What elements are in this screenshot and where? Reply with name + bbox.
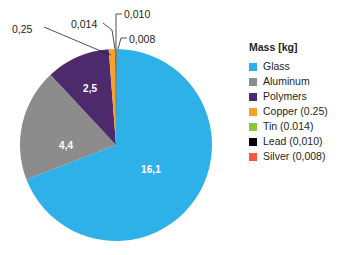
leader-line-lead [116, 14, 122, 49]
leader-line-copper [44, 27, 111, 55]
legend-item-label: Copper (0.25) [263, 106, 328, 117]
legend-title: Mass [kg] [249, 41, 341, 53]
legend-item-label: Silver (0,008) [263, 151, 325, 162]
callout-leader-lines [44, 14, 127, 55]
legend-item-label: Tin (0.014) [263, 121, 313, 132]
legend-item-lead[interactable]: Lead (0,010) [249, 134, 341, 149]
pie-plot-area: 16,14,42,5 0,250,0140,0100,008 [0, 0, 240, 255]
legend-item-list: GlassAluminumPolymersCopper (0.25)Tin (0… [249, 59, 341, 164]
legend-item-copper[interactable]: Copper (0.25) [249, 104, 341, 119]
legend-swatch-icon [249, 78, 257, 86]
pie-slice-group [20, 49, 212, 241]
legend-swatch-icon [249, 63, 257, 71]
legend-item-tin[interactable]: Tin (0.014) [249, 119, 341, 134]
legend: Mass [kg] GlassAluminumPolymersCopper (0… [249, 41, 341, 164]
legend-swatch-icon [249, 138, 257, 146]
legend-item-label: Aluminum [263, 76, 310, 87]
legend-item-aluminum[interactable]: Aluminum [249, 74, 341, 89]
legend-swatch-icon [249, 153, 257, 161]
legend-item-silver[interactable]: Silver (0,008) [249, 149, 341, 164]
legend-item-label: Lead (0,010) [263, 136, 323, 147]
legend-item-label: Polymers [263, 91, 307, 102]
legend-item-polymers[interactable]: Polymers [249, 89, 341, 104]
pie-chart-figure: 16,14,42,5 0,250,0140,0100,008 Mass [kg]… [0, 0, 341, 255]
legend-item-glass[interactable]: Glass [249, 59, 341, 74]
legend-swatch-icon [249, 123, 257, 131]
legend-swatch-icon [249, 108, 257, 116]
legend-swatch-icon [249, 93, 257, 101]
leader-line-silver [118, 38, 127, 49]
legend-item-label: Glass [263, 61, 290, 72]
leader-line-tin [103, 23, 115, 49]
pie-svg [0, 0, 240, 255]
